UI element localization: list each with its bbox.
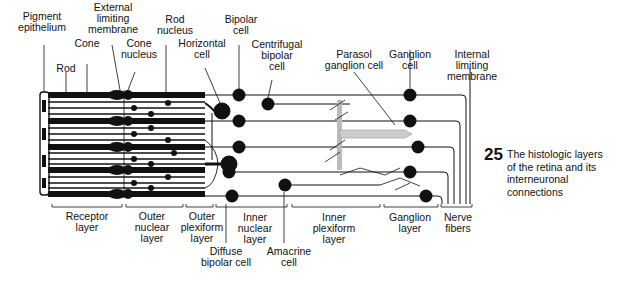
label-ganglion-cell: Ganglion cell [386, 49, 434, 71]
layer-brackets [52, 204, 472, 207]
figure-caption-text: The histologic layers of the retina and … [507, 148, 603, 198]
label-external-limiting-membrane: External limiting membrane [82, 2, 144, 35]
label-receptor-layer: Receptor layer [55, 211, 119, 233]
label-inner-plexiform-layer: Inner plexiform layer [308, 212, 360, 245]
label-ganglion-layer: Ganglion layer [384, 212, 436, 234]
label-inner-nuclear-layer: Inner nuclear layer [229, 212, 281, 245]
nerve-fibers [416, 68, 470, 204]
label-cone: Cone [68, 38, 106, 49]
label-amacrine-cell: Amacrine cell [264, 246, 314, 268]
label-pigment-epithelium: Pigment epithelium [2, 11, 82, 33]
label-bipolar-cell: Bipolar cell [218, 14, 264, 36]
label-nerve-fibers: Nerve fibers [440, 212, 476, 234]
label-horizontal-cell: Horizontal cell [170, 38, 234, 60]
pigment-epithelium [40, 92, 49, 195]
label-outer-plexiform-layer: Outer plexiform layer [176, 211, 228, 244]
label-internal-limiting-membrane: Internal limiting membrane [440, 49, 504, 82]
bipolar-cells [223, 89, 292, 203]
label-cone-nucleus: Cone nucleus [115, 38, 163, 60]
figure-number: 25 [484, 145, 503, 165]
label-rod: Rod [52, 63, 80, 74]
label-rod-nucleus: Rod nucleus [147, 14, 203, 36]
label-parasol-ganglion-cell: Parasol ganglion cell [318, 49, 390, 71]
label-centrifugal-bipolar-cell: Centrifugal bipolar cell [244, 39, 310, 72]
label-diffuse-bipolar-cell: Diffuse bipolar cell [196, 246, 256, 268]
label-outer-nuclear-layer: Outer nuclear layer [126, 211, 178, 244]
